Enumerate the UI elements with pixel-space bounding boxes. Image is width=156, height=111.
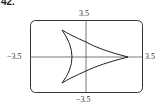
deltoid-curve	[62, 30, 128, 83]
y-min-label: −3.5	[76, 96, 91, 104]
y-max-label: 3.5	[79, 10, 89, 18]
x-max-label: 3.5	[145, 53, 155, 61]
x-min-label: −3.5	[7, 53, 22, 61]
